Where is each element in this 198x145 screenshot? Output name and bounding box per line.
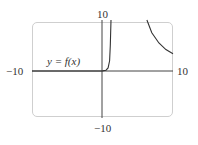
y-min-label: −10	[94, 123, 111, 134]
x-min-label: −10	[6, 66, 23, 77]
function-label: y = f(x)	[47, 56, 80, 67]
y-max-label: 10	[97, 9, 108, 20]
x-max-label: 10	[177, 66, 188, 77]
curve-branch-2	[147, 20, 173, 54]
